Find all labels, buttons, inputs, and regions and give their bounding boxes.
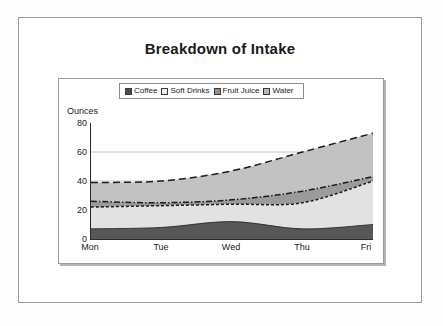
- legend-item-soft-drinks[interactable]: Soft Drinks: [161, 86, 213, 96]
- x-tick-thu: Thu: [287, 242, 317, 252]
- slide-canvas: Breakdown of Intake Coffee Soft Drinks F…: [0, 0, 443, 326]
- y-tick-20: 20: [65, 205, 87, 215]
- legend-swatch-coffee: [125, 88, 132, 95]
- x-tick-mon: Mon: [75, 242, 105, 252]
- legend-label-coffee: Coffee: [134, 86, 157, 96]
- legend-swatch-soft-drinks: [161, 88, 168, 95]
- chart-object-panel[interactable]: Coffee Soft Drinks Fruit Juice Water Oun…: [58, 78, 384, 264]
- plot-area: [90, 123, 373, 240]
- y-axis-title: Ounces: [67, 106, 98, 116]
- y-tick-80: 80: [65, 118, 87, 128]
- legend-label-water: Water: [272, 86, 293, 96]
- y-tick-60: 60: [65, 147, 87, 157]
- x-tick-fri: Fri: [353, 242, 379, 252]
- legend-label-fruit-juice: Fruit Juice: [223, 86, 260, 96]
- legend-item-coffee[interactable]: Coffee: [125, 86, 161, 96]
- x-tick-tue: Tue: [146, 242, 176, 252]
- chart-legend[interactable]: Coffee Soft Drinks Fruit Juice Water: [119, 83, 304, 99]
- x-tick-wed: Wed: [216, 242, 246, 252]
- y-tick-40: 40: [65, 176, 87, 186]
- legend-swatch-fruit-juice: [214, 88, 221, 95]
- legend-item-water[interactable]: Water: [263, 86, 297, 96]
- legend-item-fruit-juice[interactable]: Fruit Juice: [214, 86, 264, 96]
- area-chart-svg: [91, 123, 373, 239]
- series-layer: [91, 133, 373, 239]
- chart-title: Breakdown of Intake: [18, 40, 422, 57]
- legend-label-soft-drinks: Soft Drinks: [170, 86, 209, 96]
- legend-swatch-water: [263, 88, 270, 95]
